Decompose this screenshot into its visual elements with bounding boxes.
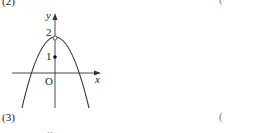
problem-number-3: (3) [2, 112, 15, 123]
open-point-vertex [53, 36, 57, 40]
parabola-graph [0, 0, 277, 133]
origin-label: O [45, 76, 53, 87]
parabola-curve [22, 37, 89, 108]
next-graph-y-label: y [47, 128, 52, 133]
tick-label-2: 2 [46, 27, 52, 38]
x-axis-label: x [95, 74, 100, 85]
y-axis-label: y [46, 10, 51, 21]
answer-paren-3: ( [219, 111, 223, 122]
y-axis-arrow-icon [53, 13, 58, 20]
tick-label-1: 1 [46, 51, 52, 62]
filled-point [53, 55, 57, 59]
